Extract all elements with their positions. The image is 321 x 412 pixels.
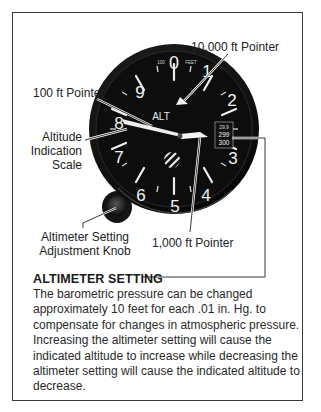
caption-line: altimeter setting will cause the indicat… (33, 364, 273, 379)
caption-body: The barometric pressure can be changed a… (33, 287, 273, 395)
callout-10000ft-pointer: 10,000 ft Pointer (191, 40, 279, 54)
callout-altitude-scale: Altitude Indication Scale (24, 130, 82, 172)
svg-text:0: 0 (169, 53, 179, 73)
caption-line: indicated altitude to increase while dec… (33, 349, 273, 364)
caption-line: decrease. (33, 379, 273, 394)
svg-text:299: 299 (219, 131, 230, 138)
callout-1000ft-pointer: 1,000 ft Pointer (152, 236, 233, 250)
svg-text:3: 3 (228, 149, 237, 168)
callout-100ft-pointer: 100 ft Pointer (33, 86, 104, 100)
svg-text:5: 5 (170, 197, 179, 216)
pointer-hub (178, 134, 183, 139)
svg-text:6: 6 (136, 186, 145, 205)
caption-line: The barometric pressure can be changed (33, 287, 273, 302)
callout-knob: Altimeter Setting Adjustment Knob (26, 230, 144, 258)
svg-text:2: 2 (227, 91, 236, 110)
callout-altitude-scale-line2: Indication (24, 144, 82, 158)
kollsman-window: 29.9 299 300 (215, 122, 233, 148)
callout-knob-line1: Altimeter Setting (26, 230, 144, 244)
svg-text:29.9: 29.9 (219, 124, 229, 130)
units-100-label: 100 (157, 60, 165, 65)
svg-text:4: 4 (201, 186, 210, 205)
svg-text:9: 9 (135, 83, 144, 102)
caption-line: Increasing the altimeter setting will ca… (33, 333, 273, 348)
callout-altitude-scale-line1: Altitude (24, 130, 82, 144)
callout-knob-line2: Adjustment Knob (26, 244, 144, 258)
altimeter-gauge: 0 1 2 3 4 5 6 7 8 9 100 FEET ALT 29.9 29… (89, 44, 259, 216)
callout-altitude-scale-line3: Scale (24, 158, 82, 172)
svg-text:300: 300 (219, 139, 230, 146)
caption-heading: ALTIMETER SETTING (33, 272, 163, 286)
caption-line: compensate for changes in atmospheric pr… (33, 318, 273, 333)
alt-label: ALT (152, 111, 170, 122)
units-feet-label: FEET (185, 60, 197, 65)
svg-text:7: 7 (114, 148, 123, 167)
caption-line: approximately 10 feet for each .01 in. H… (33, 302, 273, 317)
